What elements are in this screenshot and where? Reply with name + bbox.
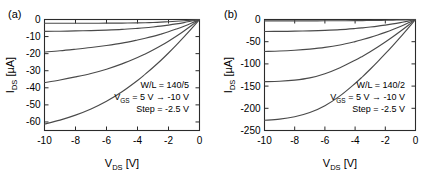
- annotation-step: Step = -2.5 V: [136, 104, 189, 114]
- annotation-vgs-post: = 5 V → -10 V: [130, 92, 189, 102]
- annotation-vgs: VGS = 5 V → -10 V: [114, 92, 189, 104]
- x-tick-label: -4: [351, 135, 360, 146]
- annotation-vgs-post: = 5 V → -10 V: [346, 92, 405, 102]
- y-tick-label: -60: [26, 116, 41, 127]
- panel-a-x-axis-title: VDS [V]: [105, 157, 139, 172]
- x-tick-label: -2: [381, 135, 390, 146]
- annotation-step: Step = -2.5 V: [352, 104, 405, 114]
- panel-b-y-axis-title: IDS [µA]: [222, 57, 237, 93]
- x-tick-label: -6: [320, 135, 329, 146]
- panel-a-y-axis-title: IDS [µA]: [4, 57, 19, 93]
- y-tick-label: -10: [26, 31, 41, 42]
- y-title-sub: DS: [228, 80, 237, 90]
- x-title-unit: [V]: [123, 157, 140, 169]
- annotation-wl: W/L = 140/2: [357, 80, 405, 90]
- y-title-unit: [µA]: [4, 57, 16, 80]
- svg-text:VDS [V]: VDS [V]: [323, 157, 357, 172]
- x-tick-label: -6: [102, 135, 111, 146]
- y-tick-label: 0: [255, 14, 261, 25]
- x-tick-label: -2: [164, 135, 173, 146]
- figure-output-characteristics: (a) 0-10-20-30-40-50-60 -10-8-6-4-20 IDS…: [0, 0, 432, 183]
- y-tick-label: -30: [26, 65, 41, 76]
- x-tick-label: 0: [413, 135, 419, 146]
- x-tick-label: 0: [197, 135, 203, 146]
- x-title-unit: [V]: [341, 157, 358, 169]
- y-tick-label: -200: [240, 103, 260, 114]
- y-tick-label: -20: [26, 48, 41, 59]
- y-title-sub: DS: [10, 80, 19, 90]
- y-tick-label: -100: [240, 58, 260, 69]
- y-tick-label: -50: [246, 36, 261, 47]
- annotation-wl: W/L = 140/5: [141, 80, 189, 90]
- panel-b-x-axis-title: VDS [V]: [323, 157, 357, 172]
- panel-b-plot: 0-50-100-150-200-250 -10-8-6-4-20 IDS [µ…: [216, 0, 432, 183]
- x-tick-label: -8: [290, 135, 299, 146]
- panel-a: (a) 0-10-20-30-40-50-60 -10-8-6-4-20 IDS…: [0, 0, 216, 183]
- x-title-sub: DS: [112, 163, 122, 172]
- iv-curve: [45, 20, 200, 24]
- svg-text:VDS [V]: VDS [V]: [105, 157, 139, 172]
- y-tick-label: -150: [240, 81, 260, 92]
- y-tick-label: -50: [26, 99, 41, 110]
- panel-a-annotation: W/L = 140/5 VGS = 5 V → -10 V Step = -2.…: [114, 80, 189, 114]
- svg-text:IDS [µA]: IDS [µA]: [4, 57, 19, 93]
- x-tick-label: -10: [257, 135, 272, 146]
- y-tick-label: 0: [35, 14, 41, 25]
- annotation-vgs: VGS = 5 V → -10 V: [330, 92, 405, 104]
- x-tick-label: -4: [133, 135, 142, 146]
- panel-b: (b) 0-50-100-150-200-250 -10-8-6-4-20 ID…: [216, 0, 432, 183]
- x-tick-label: -10: [37, 135, 52, 146]
- x-title-sub: DS: [330, 163, 340, 172]
- svg-text:IDS [µA]: IDS [µA]: [222, 57, 237, 93]
- panel-b-annotation: W/L = 140/2 VGS = 5 V → -10 V Step = -2.…: [330, 80, 405, 114]
- panel-a-plot: 0-10-20-30-40-50-60 -10-8-6-4-20 IDS [µA…: [0, 0, 216, 183]
- y-tick-label: -40: [26, 82, 41, 93]
- x-tick-label: -8: [71, 135, 80, 146]
- y-title-unit: [µA]: [222, 57, 234, 80]
